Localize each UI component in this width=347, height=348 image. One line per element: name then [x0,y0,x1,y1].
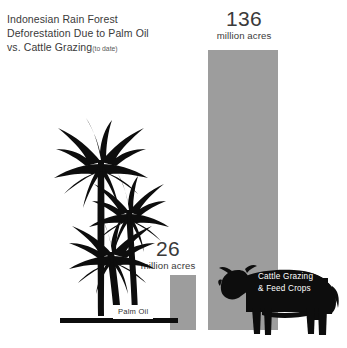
title-line-3-main: vs. Cattle Grazing [7,41,92,53]
title-line-3: vs. Cattle Grazing(to date) [7,40,197,56]
title-line-2: Deforestation Due to Palm Oil [7,26,197,40]
title-qualifier: (to date) [92,45,117,52]
page-title: Indonesian Rain Forest Deforestation Due… [7,12,197,57]
bar-label-palm-oil: Palm Oil [113,305,153,319]
value-label-cattle: 136 million acres [198,8,290,42]
value-number-cattle: 136 [198,8,290,30]
infographic-canvas: Indonesian Rain Forest Deforestation Due… [0,0,347,348]
title-line-1: Indonesian Rain Forest [7,12,197,26]
palm-trees-illustration [28,118,188,323]
value-unit-cattle: million acres [198,30,290,42]
cow-silhouette-icon [218,258,340,336]
